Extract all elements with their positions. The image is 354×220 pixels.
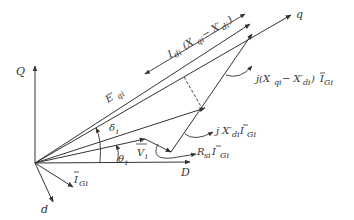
svg-text:− X′: − X′ xyxy=(282,73,304,84)
voltage-phasor-Vi xyxy=(35,139,145,163)
svg-text:Gi: Gi xyxy=(324,78,333,87)
svg-text:j(X: j(X xyxy=(254,73,271,84)
IGi-label: I Gi xyxy=(73,172,88,188)
Vi-label: V i xyxy=(136,144,148,161)
svg-text:i: i xyxy=(145,152,148,161)
svg-text:I: I xyxy=(211,146,217,157)
svg-text:− X′: − X′ xyxy=(199,20,223,40)
R-IGi-label: R si I Gi xyxy=(196,146,229,160)
svg-text:di: di xyxy=(172,48,184,60)
svg-text:Gi: Gi xyxy=(247,130,256,139)
svg-text:I: I xyxy=(239,125,245,136)
D-axis xyxy=(35,162,190,163)
jXqXd-I-callout-arrow xyxy=(226,66,252,76)
svg-text:i: i xyxy=(125,158,128,167)
svg-text:(X: (X xyxy=(180,36,196,51)
jXd-I-callout-arrow xyxy=(185,132,213,138)
svg-text:di: di xyxy=(303,78,311,87)
theta-label: θ i xyxy=(118,153,128,167)
delta-label: δ i xyxy=(109,122,119,136)
svg-text:qi: qi xyxy=(274,78,282,87)
jXqXd-IGi-label: j(X qi − X′ di ) I Gi xyxy=(254,73,333,87)
d-axis-label: d xyxy=(41,203,48,216)
svg-text:i: i xyxy=(116,127,119,136)
q-axis xyxy=(35,15,291,163)
svg-text:si: si xyxy=(204,151,211,160)
svg-text:Gi: Gi xyxy=(79,179,88,188)
delta-angle-arc xyxy=(96,128,101,162)
R-I-callout-arrow xyxy=(156,144,196,158)
dashed-projection-line xyxy=(184,77,203,110)
svg-text:): ) xyxy=(310,73,315,84)
jXd-IGi-label: j X′ di I Gi xyxy=(214,125,256,139)
svg-text:di: di xyxy=(232,130,240,139)
E-q-transient-phasor xyxy=(35,24,250,163)
svg-text:Gi: Gi xyxy=(220,151,229,160)
svg-text:δ: δ xyxy=(109,122,115,133)
Idi-Xqi-Xdi-label: I di (X qi − X′ di ) xyxy=(165,14,236,63)
phasor-diagram: Q q D d E′ qi I di (X qi − X′ di ) j(X q… xyxy=(0,0,354,220)
svg-text:j X′: j X′ xyxy=(214,125,232,136)
q-axis-label: q xyxy=(296,8,303,21)
svg-text:θ: θ xyxy=(118,153,124,164)
Q-axis-label: Q xyxy=(16,65,25,78)
D-axis-label: D xyxy=(180,166,190,179)
resistive-drop-phasor xyxy=(145,139,171,152)
